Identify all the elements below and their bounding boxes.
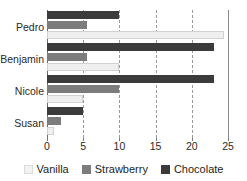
legend-label-vanilla: Vanilla — [37, 164, 69, 175]
grouped-bar-chart: PedroBenjaminNicoleSusan 0510152025 Vani… — [0, 0, 247, 181]
category-label-susan: Susan — [0, 118, 44, 129]
bar-nicole-chocolate[interactable] — [47, 75, 214, 83]
bar-benjamin-vanilla[interactable] — [47, 63, 119, 71]
bar-nicole-strawberry[interactable] — [47, 85, 119, 93]
legend-item-strawberry[interactable]: Strawberry — [82, 164, 148, 175]
plot-area — [47, 10, 228, 138]
bar-susan-chocolate[interactable] — [47, 107, 83, 115]
bar-susan-vanilla[interactable] — [47, 127, 54, 135]
chart-legend: VanillaStrawberryChocolate — [0, 160, 247, 178]
tick-label-5: 5 — [80, 141, 86, 152]
bar-nicole-vanilla[interactable] — [47, 95, 83, 103]
bar-group-nicole — [47, 74, 228, 106]
bar-group-pedro — [47, 10, 228, 42]
vanilla-swatch — [24, 165, 33, 174]
legend-label-strawberry: Strawberry — [95, 164, 148, 175]
legend-item-vanilla[interactable]: Vanilla — [24, 164, 69, 175]
legend-item-chocolate[interactable]: Chocolate — [161, 164, 224, 175]
chocolate-swatch — [161, 165, 170, 174]
bar-pedro-strawberry[interactable] — [47, 21, 87, 29]
tick-label-15: 15 — [150, 141, 162, 152]
bar-pedro-chocolate[interactable] — [47, 11, 119, 19]
bar-group-susan — [47, 106, 228, 138]
tick-label-20: 20 — [186, 141, 198, 152]
bar-benjamin-strawberry[interactable] — [47, 53, 87, 61]
tick-label-25: 25 — [222, 141, 234, 152]
tick-label-0: 0 — [44, 141, 50, 152]
bar-susan-strawberry[interactable] — [47, 117, 61, 125]
legend-label-chocolate: Chocolate — [174, 164, 224, 175]
category-label-pedro: Pedro — [0, 22, 44, 33]
tick-label-10: 10 — [114, 141, 126, 152]
strawberry-swatch — [82, 165, 91, 174]
gridline-25 — [228, 10, 230, 138]
category-label-nicole: Nicole — [0, 86, 44, 97]
bar-benjamin-chocolate[interactable] — [47, 43, 214, 51]
bar-pedro-vanilla[interactable] — [47, 31, 224, 39]
bar-group-benjamin — [47, 42, 228, 74]
category-label-benjamin: Benjamin — [0, 54, 44, 65]
